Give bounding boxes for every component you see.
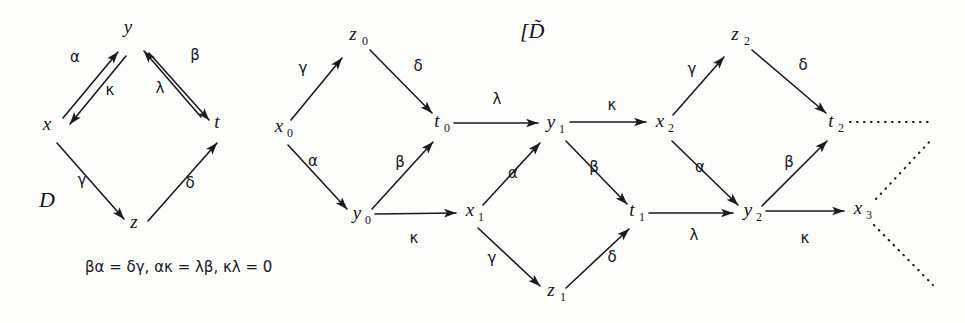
- node-x2-base: x: [655, 110, 665, 131]
- node-x2-sub: 2: [668, 121, 674, 135]
- edge-label-gamma-x2z2: γ: [688, 60, 697, 78]
- edge-z1-to-t1: [566, 229, 629, 288]
- edge-label-beta-y0t0: β: [395, 153, 405, 171]
- edge-label-gamma-x0z0: γ: [299, 59, 308, 77]
- edge-label-alpha-x1y1: α: [508, 164, 518, 182]
- graph-D: y x t z α κ λ β γ δ D: [38, 16, 220, 232]
- node-x3: x 3: [853, 197, 872, 222]
- edge-label-delta-zt: δ: [185, 174, 194, 192]
- node-t2-base: t: [828, 110, 834, 131]
- edge-x2-to-y2: [672, 141, 738, 205]
- node-t0-sub: 0: [444, 121, 450, 135]
- node-y2-base: y: [742, 199, 753, 220]
- node-z1-base: z: [546, 279, 555, 300]
- diagram-label-D: D: [38, 187, 55, 212]
- edge-label-lambda-ty: λ: [156, 79, 165, 97]
- node-x1: x 1: [465, 199, 484, 224]
- node-y2: y 2: [742, 199, 762, 224]
- edge-label-alpha-xy: α: [70, 48, 80, 66]
- node-x1-sub: 1: [478, 210, 484, 224]
- edge-y2-to-t2: [762, 141, 827, 206]
- node-t1-base: t: [629, 199, 635, 220]
- node-x0-base: x: [274, 115, 284, 136]
- edge-label-beta-yt: β: [190, 46, 200, 64]
- edge-label-kappa-y2x3: κ: [801, 229, 810, 247]
- edge-label-beta-y1t1: β: [589, 158, 599, 176]
- edge-label-kappa-y1x2: κ: [608, 96, 617, 114]
- node-y0-sub: 0: [365, 213, 371, 227]
- edge-label-beta-y2t2: β: [784, 153, 794, 171]
- node-t: t: [214, 111, 220, 132]
- relations-text: βα = δγ, ακ = λβ, κλ = 0: [85, 258, 272, 276]
- node-x1-base: x: [465, 199, 475, 220]
- node-x3-base: x: [853, 197, 863, 218]
- edge-label-lambda-t1y2: λ: [690, 226, 699, 244]
- node-y0: y 0: [351, 202, 371, 227]
- edge-z0-to-t0: [370, 50, 432, 113]
- node-t1-sub: 1: [639, 210, 645, 224]
- edge-label-kappa-y0x1: κ: [410, 229, 419, 247]
- diagram-canvas: y x t z α κ λ β γ δ D βα = δγ, ακ = λβ, …: [0, 0, 965, 323]
- node-x3-sub: 3: [866, 208, 872, 222]
- node-z2: z 2: [730, 23, 750, 48]
- edge-label-gamma-xz: γ: [78, 171, 87, 189]
- node-t2: t 2: [828, 110, 844, 135]
- node-x0: x 0: [274, 115, 293, 140]
- edge-label-lambda-t0y1: λ: [493, 90, 502, 108]
- node-z: z: [129, 211, 138, 232]
- node-z2-base: z: [730, 23, 739, 44]
- node-y0-base: y: [351, 202, 362, 223]
- edge-label-delta-z0t0: δ: [413, 57, 422, 75]
- node-y2-sub: 2: [756, 210, 762, 224]
- node-z1: z 1: [546, 279, 566, 304]
- node-x0-sub: 0: [287, 126, 293, 140]
- node-t1: t 1: [629, 199, 645, 224]
- figure-page: y x t z α κ λ β γ δ D βα = δγ, ακ = λβ, …: [0, 0, 965, 323]
- edge-z2-to-t2: [752, 50, 826, 113]
- node-z0-sub: 0: [362, 34, 368, 48]
- node-y1-sub: 1: [559, 122, 565, 136]
- edge-label-alpha-x2y2: α: [695, 158, 705, 176]
- edge-label-delta-z2t2: δ: [798, 56, 807, 74]
- continuation-edge-x3-up-right: [876, 138, 933, 199]
- edge-label-delta-z1t1: δ: [607, 248, 616, 266]
- node-t0-base: t: [434, 110, 440, 131]
- node-t2-sub: 2: [838, 121, 844, 135]
- node-y: y: [122, 16, 133, 37]
- edge-y-to-x: [70, 56, 126, 124]
- edge-label-alpha-x0y0: α: [308, 152, 318, 170]
- node-x: x: [42, 113, 52, 134]
- node-y1-base: y: [545, 111, 556, 132]
- continuation-edge-x3-down-right: [874, 225, 933, 285]
- node-z2-sub: 2: [744, 34, 750, 48]
- node-x2: x 2: [655, 110, 674, 135]
- edge-y0-to-x1: [375, 213, 456, 214]
- node-z0-base: z: [348, 23, 357, 44]
- edge-x2-to-z2: [673, 57, 724, 115]
- edge-label-kappa-yx: κ: [106, 81, 115, 99]
- edge-label-gamma-x1z1: γ: [488, 249, 497, 267]
- edge-x-to-z: [57, 143, 124, 219]
- graph-D-tilde: z 0 x 0 t 0 y 0 x 1 y 1: [274, 18, 933, 304]
- node-z0: z 0: [348, 23, 368, 48]
- node-z1-sub: 1: [560, 290, 566, 304]
- node-t0: t 0: [434, 110, 450, 135]
- edge-z-to-t: [148, 143, 217, 221]
- node-y1: y 1: [545, 111, 565, 136]
- diagram-label-D-tilde: [D̃: [520, 18, 545, 43]
